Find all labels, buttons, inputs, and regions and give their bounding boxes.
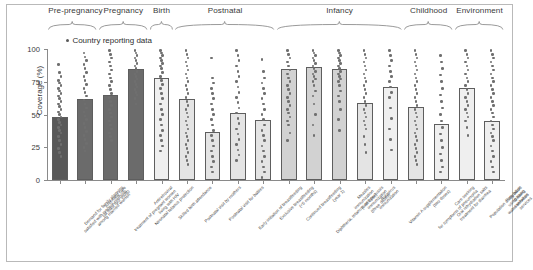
country-data-point xyxy=(237,54,240,57)
bar[interactable] xyxy=(357,103,373,180)
country-data-point xyxy=(440,100,443,103)
country-data-point xyxy=(466,65,469,68)
country-data-point xyxy=(491,88,494,91)
country-data-point xyxy=(286,139,289,142)
country-data-point xyxy=(238,138,241,141)
country-data-point xyxy=(212,82,215,85)
country-data-point xyxy=(287,53,290,56)
country-data-point xyxy=(109,53,112,56)
country-data-point xyxy=(185,84,188,87)
country-data-point xyxy=(365,57,368,60)
country-data-point xyxy=(439,153,442,156)
country-data-point xyxy=(414,108,417,111)
country-data-point xyxy=(109,135,112,138)
country-data-point xyxy=(187,104,190,107)
country-data-point xyxy=(108,49,111,52)
country-data-point xyxy=(85,95,88,98)
country-data-point xyxy=(363,49,366,52)
country-data-point xyxy=(339,108,342,111)
country-data-point xyxy=(186,88,189,91)
country-data-point xyxy=(85,142,88,145)
country-data-point xyxy=(390,91,393,94)
country-data-point xyxy=(490,84,493,87)
country-data-point xyxy=(337,80,340,83)
country-data-point xyxy=(389,70,392,73)
country-data-point xyxy=(440,139,443,142)
y-tick-mark xyxy=(44,180,47,181)
country-data-point xyxy=(466,100,469,103)
y-tick-mark xyxy=(44,115,47,116)
country-data-point xyxy=(490,61,493,64)
country-data-point xyxy=(108,132,111,135)
y-tick-label: 50 xyxy=(16,111,40,120)
country-data-point xyxy=(365,92,368,95)
country-data-point xyxy=(464,73,467,76)
country-data-point xyxy=(414,61,417,64)
country-data-point xyxy=(287,77,290,80)
country-data-point xyxy=(159,87,162,90)
country-data-point xyxy=(108,108,111,111)
country-data-point xyxy=(186,147,189,150)
country-data-point xyxy=(238,91,241,94)
y-axis-line xyxy=(47,49,48,181)
x-tick-mark xyxy=(162,181,163,184)
country-data-point xyxy=(492,57,495,60)
country-data-point xyxy=(161,83,164,86)
country-data-point xyxy=(60,108,63,111)
country-data-point xyxy=(187,92,190,95)
country-data-point xyxy=(85,130,88,133)
country-data-point xyxy=(185,73,188,76)
country-data-point xyxy=(238,75,241,78)
country-data-point xyxy=(237,101,240,104)
x-axis-line xyxy=(47,180,505,181)
country-data-point xyxy=(161,129,164,132)
country-data-point xyxy=(441,87,444,90)
country-data-point xyxy=(491,77,494,80)
country-data-point xyxy=(187,163,190,166)
country-data-point xyxy=(464,108,467,111)
x-tick-mark xyxy=(187,181,188,184)
country-data-point xyxy=(414,73,417,76)
country-data-point xyxy=(161,71,164,74)
country-data-point xyxy=(286,49,289,52)
x-tick-mark xyxy=(111,181,112,184)
country-data-point xyxy=(210,134,213,137)
country-data-point xyxy=(416,69,419,72)
country-data-point xyxy=(490,49,493,52)
country-data-point xyxy=(286,84,289,87)
country-data-point xyxy=(261,58,264,61)
country-data-point xyxy=(262,87,265,90)
country-data-point xyxy=(286,96,289,99)
country-data-point xyxy=(492,80,495,83)
country-data-point xyxy=(110,69,113,72)
country-data-point xyxy=(363,73,366,76)
country-data-point xyxy=(187,80,190,83)
bar[interactable] xyxy=(383,87,399,180)
country-data-point xyxy=(235,80,238,83)
country-data-point xyxy=(211,92,214,95)
country-data-point xyxy=(85,83,88,86)
country-data-point xyxy=(211,108,214,111)
country-data-point xyxy=(159,134,162,137)
country-data-point xyxy=(415,159,418,162)
country-data-point xyxy=(110,57,113,60)
country-data-point xyxy=(85,107,88,110)
country-data-point xyxy=(441,107,444,110)
country-data-point xyxy=(440,159,443,162)
country-data-point xyxy=(262,134,265,137)
country-data-point xyxy=(185,61,188,64)
country-data-point xyxy=(492,104,495,107)
country-data-point xyxy=(84,56,87,59)
country-data-point xyxy=(388,49,391,52)
country-data-point xyxy=(388,80,391,83)
country-data-point xyxy=(85,71,88,74)
legend-label: Country reporting data xyxy=(72,36,152,45)
country-data-point xyxy=(466,77,469,80)
country-data-point xyxy=(160,108,163,111)
country-data-point xyxy=(492,155,495,158)
country-data-point xyxy=(439,74,442,77)
country-data-point xyxy=(235,49,238,52)
x-tick-mark xyxy=(212,181,213,184)
country-data-point xyxy=(211,139,214,142)
country-data-point xyxy=(289,80,292,83)
